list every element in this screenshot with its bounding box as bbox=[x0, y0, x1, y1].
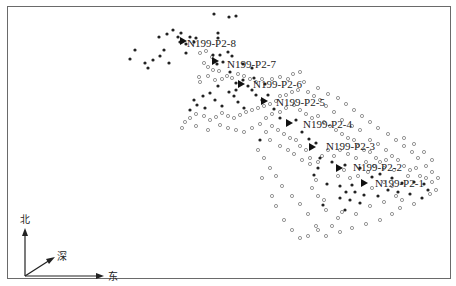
filled-event-point bbox=[165, 32, 168, 35]
open-event-point bbox=[270, 194, 273, 197]
filled-event-point bbox=[312, 173, 315, 176]
open-event-point bbox=[242, 74, 245, 77]
open-event-point bbox=[264, 116, 267, 119]
open-event-point bbox=[378, 218, 381, 221]
open-event-point bbox=[314, 224, 317, 227]
filled-event-point bbox=[234, 81, 237, 84]
stage-label: N199-P2-3 bbox=[326, 140, 375, 152]
open-event-point bbox=[290, 194, 293, 197]
filled-event-point bbox=[211, 53, 214, 56]
open-event-point bbox=[256, 106, 259, 109]
open-event-point bbox=[316, 194, 319, 197]
filled-event-point bbox=[242, 106, 245, 109]
open-event-point bbox=[220, 77, 223, 80]
open-event-point bbox=[340, 132, 343, 135]
open-event-point bbox=[332, 110, 335, 113]
filled-event-point bbox=[212, 12, 215, 15]
open-event-point bbox=[226, 114, 229, 117]
open-event-point bbox=[264, 130, 267, 133]
filled-event-point bbox=[278, 116, 281, 119]
open-event-point bbox=[234, 128, 237, 131]
open-event-point bbox=[356, 174, 359, 177]
east-arrow-icon bbox=[96, 273, 104, 279]
open-event-point bbox=[276, 128, 279, 131]
filled-event-point bbox=[201, 94, 204, 97]
open-event-point bbox=[242, 130, 245, 133]
stage-label: N199-P2-6 bbox=[253, 78, 302, 90]
open-event-point bbox=[354, 156, 357, 159]
open-event-point bbox=[344, 102, 347, 105]
open-event-point bbox=[202, 61, 205, 64]
filled-event-point bbox=[192, 98, 195, 101]
filled-event-point bbox=[179, 31, 182, 34]
open-event-point bbox=[258, 122, 261, 125]
filled-event-point bbox=[167, 61, 170, 64]
open-event-point bbox=[202, 114, 205, 117]
open-event-point bbox=[350, 226, 353, 229]
open-event-point bbox=[338, 230, 341, 233]
open-event-point bbox=[282, 132, 285, 135]
filled-event-point bbox=[226, 50, 229, 53]
filled-event-point bbox=[234, 14, 237, 17]
open-event-point bbox=[374, 156, 377, 159]
open-event-point bbox=[291, 72, 294, 75]
open-event-point bbox=[340, 210, 343, 213]
open-event-point bbox=[268, 102, 271, 105]
filled-event-point bbox=[157, 35, 160, 38]
open-event-point bbox=[348, 176, 351, 179]
filled-event-point bbox=[184, 51, 187, 54]
filled-event-point bbox=[236, 100, 239, 103]
open-event-point bbox=[322, 198, 325, 201]
filled-event-point bbox=[203, 106, 206, 109]
compass-rose: 北 深 东 bbox=[20, 214, 118, 282]
filled-event-point bbox=[353, 190, 356, 193]
open-event-point bbox=[288, 136, 291, 139]
open-event-point bbox=[220, 111, 223, 114]
filled-event-point bbox=[254, 93, 257, 96]
open-event-point bbox=[268, 138, 271, 141]
filled-event-point bbox=[232, 94, 235, 97]
open-event-point bbox=[424, 176, 427, 179]
open-event-point bbox=[336, 174, 339, 177]
open-event-point bbox=[206, 74, 209, 77]
open-event-point bbox=[198, 51, 201, 54]
open-event-point bbox=[298, 108, 301, 111]
filled-event-point bbox=[307, 137, 310, 140]
depth-arrow-icon bbox=[46, 257, 55, 264]
open-event-point bbox=[211, 68, 214, 71]
filled-event-point bbox=[370, 175, 373, 178]
filled-event-point bbox=[343, 208, 346, 211]
open-event-point bbox=[274, 204, 277, 207]
stage-label: N199-P2-2 bbox=[353, 161, 402, 173]
open-event-point bbox=[262, 156, 265, 159]
filled-event-point bbox=[158, 54, 161, 57]
perforation-stage-markers: N199-P2-8N199-P2-7N199-P2-6N199-P2-5N199… bbox=[180, 37, 424, 189]
open-event-point bbox=[428, 192, 431, 195]
open-event-point bbox=[368, 120, 371, 123]
open-event-point bbox=[304, 148, 307, 151]
filled-event-point bbox=[162, 48, 165, 51]
open-event-point bbox=[290, 228, 293, 231]
open-event-point bbox=[274, 174, 277, 177]
open-event-point bbox=[180, 126, 183, 129]
open-event-point bbox=[402, 164, 405, 167]
open-event-point bbox=[400, 198, 403, 201]
filled-event-point bbox=[216, 84, 219, 87]
stage-label: N199-P2-5 bbox=[276, 96, 325, 108]
open-event-point bbox=[402, 144, 405, 147]
stage-marker-icon bbox=[286, 119, 293, 127]
open-event-point bbox=[206, 65, 209, 68]
filled-event-point bbox=[294, 118, 297, 121]
open-event-point bbox=[236, 72, 239, 75]
filled-event-point bbox=[338, 196, 341, 199]
filled-event-point bbox=[176, 35, 179, 38]
open-event-point bbox=[306, 212, 309, 215]
open-event-point bbox=[416, 156, 419, 159]
open-event-point bbox=[346, 152, 349, 155]
open-event-point bbox=[330, 224, 333, 227]
filled-event-point bbox=[396, 190, 399, 193]
open-event-point bbox=[298, 202, 301, 205]
stage-label: N199-P2-8 bbox=[187, 37, 236, 49]
filled-event-point bbox=[344, 190, 347, 193]
filled-event-point bbox=[350, 183, 353, 186]
